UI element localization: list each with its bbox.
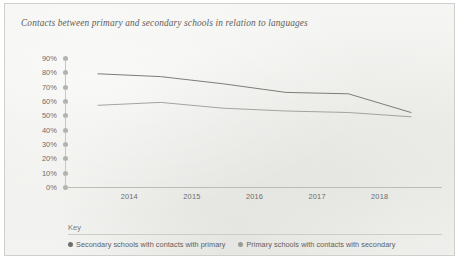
chart-legend: Key Secondary schools with contacts with… — [68, 223, 442, 249]
legend-marker-dot-icon — [238, 242, 243, 247]
y-axis-tick-label: 0% — [27, 183, 57, 192]
y-axis-tick-label: 10% — [27, 169, 57, 178]
y-axis-tick-label: 90% — [27, 54, 57, 63]
series-line-1 — [98, 74, 411, 113]
y-axis-spine-segment — [65, 175, 66, 185]
y-axis-tick-label: 70% — [27, 83, 57, 92]
plot-area: 90%80%70%60%50%40%30%20%10%0%20142015201… — [5, 4, 455, 256]
y-axis-spine-segment — [65, 146, 66, 156]
y-axis-tick-label: 60% — [27, 97, 57, 106]
x-axis-tick-label: 2014 — [106, 192, 152, 201]
y-axis-tick-label: 30% — [27, 140, 57, 149]
y-axis-spine-segment — [65, 117, 66, 127]
legend-item-label: Primary schools with contacts with secon… — [246, 240, 395, 249]
legend-divider — [68, 234, 442, 235]
y-axis-spine-segment — [65, 74, 66, 84]
y-axis-tick-label: 50% — [27, 111, 57, 120]
x-axis-tick-label: 2015 — [169, 192, 215, 201]
legend-item[interactable]: Secondary schools with contacts with pri… — [68, 240, 225, 249]
y-axis-spine-segment — [65, 89, 66, 99]
y-axis-spine-segment — [65, 160, 66, 170]
legend-item-label: Secondary schools with contacts with pri… — [76, 240, 225, 249]
y-axis-tick-label: 80% — [27, 68, 57, 77]
x-axis-tick-label: 2016 — [232, 192, 278, 201]
chart-panel: Contacts between primary and secondary s… — [4, 3, 455, 256]
x-axis-line — [65, 187, 442, 188]
legend-items: Secondary schools with contacts with pri… — [68, 240, 442, 249]
series-lines — [5, 4, 455, 256]
legend-title: Key — [68, 223, 442, 232]
legend-marker-dot-icon — [68, 242, 73, 247]
y-axis-tick-label: 20% — [27, 154, 57, 163]
y-axis-spine-segment — [65, 103, 66, 113]
legend-item[interactable]: Primary schools with contacts with secon… — [238, 240, 395, 249]
y-axis-spine-segment — [65, 60, 66, 70]
y-axis-spine-segment — [65, 132, 66, 142]
series-line-2 — [98, 102, 411, 116]
y-axis-tick-label: 40% — [27, 126, 57, 135]
x-axis-tick-label: 2017 — [294, 192, 340, 201]
x-axis-tick-label: 2018 — [357, 192, 403, 201]
